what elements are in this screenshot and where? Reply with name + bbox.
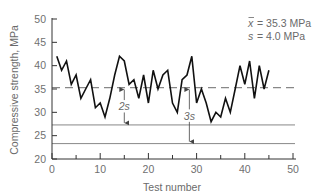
sd-symbol: s (248, 30, 254, 42)
y-axis-title: Compressive strength, MPa (8, 25, 20, 155)
y-tick-label: 20 (34, 153, 46, 165)
x-tick-label: 0 (49, 163, 55, 175)
mean-value: = 35.3 MPa (257, 17, 311, 29)
annotation-label: 3s (184, 110, 196, 122)
strength-series-line (57, 56, 269, 121)
x-axis-title: Test number (143, 181, 201, 193)
y-tick-label: 35 (34, 83, 46, 95)
reference-lines (52, 88, 295, 144)
x-tick-label: 30 (191, 163, 203, 175)
strength-chart: 2025303540455001020304050 2s3s Test numb… (0, 0, 314, 195)
x-tick-label: 20 (143, 163, 155, 175)
annotation-label: 2s (118, 100, 131, 112)
y-tick-label: 40 (34, 59, 46, 71)
mean-symbol: x (247, 17, 254, 29)
x-tick-label: 10 (94, 163, 106, 175)
y-tick-label: 45 (34, 36, 46, 48)
y-tick-label: 50 (34, 13, 46, 25)
y-tick-label: 30 (34, 106, 46, 118)
x-tick-label: 50 (287, 163, 299, 175)
annotations: 2s3s (116, 90, 197, 142)
y-tick-label: 25 (34, 129, 46, 141)
sd-value: = 4.0 MPa (257, 30, 305, 42)
x-tick-label: 40 (239, 163, 251, 175)
stats-box: x = 35.3 MPa s = 4.0 MPa (247, 17, 311, 42)
